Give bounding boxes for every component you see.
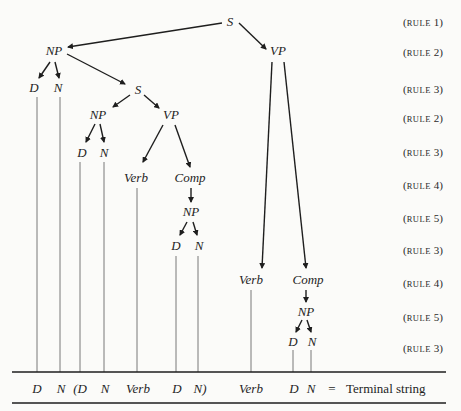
- terminal-token: N: [100, 381, 111, 396]
- arrow-vp2-to-comp1: [175, 125, 190, 167]
- arrow-np1-to-n1: [55, 62, 59, 78]
- arrow-vp1-to-comp2: [284, 62, 306, 268]
- arrow-np3-to-d3: [180, 222, 187, 235]
- terminal-tokens: DN(DNVerbDN)VerbDN: [31, 381, 316, 396]
- terminal-string-label: Terminal string: [346, 381, 426, 396]
- node-n2: N: [99, 145, 110, 160]
- terminal-token: N: [306, 381, 317, 396]
- arrow-s2-to-np2: [113, 95, 130, 107]
- node-np1: NP: [45, 43, 63, 58]
- arrow-np1-to-d1: [39, 62, 50, 78]
- arrow-s1-to-vp1: [239, 23, 266, 49]
- rule-label: (RULE 4): [403, 277, 443, 290]
- node-vp2: VP: [163, 107, 179, 122]
- node-verb2: Verb: [239, 272, 263, 287]
- rule-label: (RULE 4): [403, 179, 443, 192]
- arrow-np4-to-n4: [307, 320, 311, 332]
- node-verb1: Verb: [124, 170, 148, 185]
- terminal-token: (D: [73, 381, 87, 396]
- equals-sign: =: [328, 381, 335, 396]
- node-n4: N: [307, 334, 318, 349]
- node-n3: N: [194, 238, 205, 253]
- phrase-structure-tree: SNPVPDNSNPVPDNVerbCompNPDNVerbCompNPDN (…: [0, 0, 461, 411]
- rule-label: (RULE 2): [403, 46, 443, 59]
- node-np4: NP: [297, 304, 315, 319]
- node-n1: N: [53, 80, 64, 95]
- rule-label: (RULE 3): [403, 244, 443, 257]
- terminal-token: N: [56, 381, 67, 396]
- arrow-np4-to-d4: [296, 320, 302, 332]
- terminal-string-row: DN(DNVerbDN)VerbDN = Terminal string: [12, 372, 446, 403]
- rule-label: (RULE 3): [403, 83, 443, 96]
- node-np3: NP: [182, 204, 200, 219]
- node-s2: S: [135, 82, 142, 97]
- arrow-np2-to-d2: [86, 124, 95, 142]
- terminal-token: Verb: [239, 381, 263, 396]
- terminal-token: D: [288, 381, 299, 396]
- terminal-token: N): [193, 381, 207, 396]
- arrow-vp2-to-verb1: [143, 125, 163, 162]
- rule-label: (RULE 2): [403, 112, 443, 125]
- node-d3: D: [170, 238, 181, 253]
- arrow-s2-to-vp2: [144, 95, 159, 108]
- rule-label: (RULE 3): [403, 342, 443, 355]
- terminal-token: Verb: [126, 381, 150, 396]
- node-vp1: VP: [270, 43, 286, 58]
- arrow-np2-to-n2: [100, 124, 104, 142]
- rule-labels: (RULE 1)(RULE 2)(RULE 3)(RULE 2)(RULE 3)…: [403, 16, 443, 355]
- arrow-np3-to-n3: [193, 222, 197, 235]
- node-s1: S: [227, 14, 234, 29]
- rule-label: (RULE 1): [403, 16, 443, 29]
- node-d2: D: [76, 145, 87, 160]
- rule-label: (RULE 5): [403, 311, 443, 324]
- node-d1: D: [28, 80, 39, 95]
- terminal-token: D: [171, 381, 182, 396]
- terminal-token: D: [31, 381, 42, 396]
- terminal-drop-lines: [37, 97, 311, 372]
- arrow-np1-to-s2: [67, 54, 125, 84]
- arrow-s1-to-np1: [68, 23, 222, 47]
- node-np2: NP: [89, 107, 107, 122]
- rule-label: (RULE 3): [403, 146, 443, 159]
- node-comp2: Comp: [292, 272, 324, 287]
- rule-label: (RULE 5): [403, 212, 443, 225]
- node-comp1: Comp: [174, 170, 206, 185]
- node-d4: D: [287, 334, 298, 349]
- arrow-vp1-to-verb2: [262, 62, 272, 268]
